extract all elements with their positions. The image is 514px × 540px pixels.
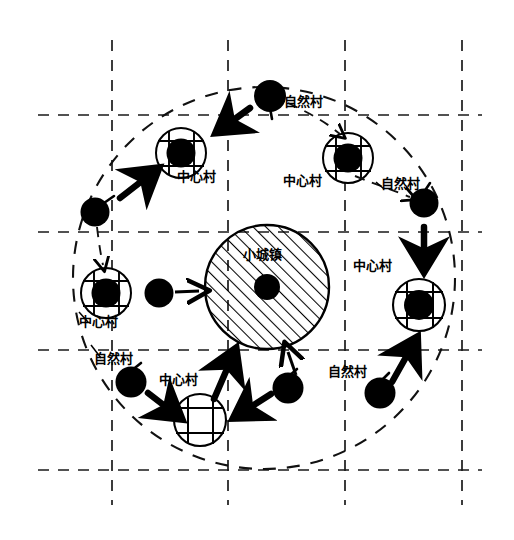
central-village-node[interactable] [174, 394, 226, 446]
diagram-canvas: 自然村 中心村 中心村 自然村 小城镇 中心村 中心村 自然村 中心村 自然村 [0, 0, 514, 540]
small-town-core-dot [254, 274, 280, 300]
label-natural-village-upper-right: 自然村 [381, 177, 420, 190]
central-village-core-dot [404, 290, 434, 320]
settlement-hierarchy-diagram [0, 0, 514, 540]
flow-arrow [246, 394, 271, 410]
label-central-village-top-right: 中心村 [283, 174, 322, 187]
flow-arrow [148, 393, 170, 410]
label-central-village-right: 中心村 [353, 259, 392, 272]
label-small-town: 小城镇 [243, 248, 282, 261]
natural-village-dot[interactable] [145, 279, 174, 308]
central-village-node[interactable] [393, 279, 445, 331]
flow-arrow [392, 350, 410, 382]
central-village-core-dot [334, 144, 363, 173]
label-central-village-top-left: 中心村 [177, 170, 216, 183]
central-village-node[interactable] [323, 133, 373, 183]
label-natural-village-bottom-right: 自然村 [328, 365, 367, 378]
small-town-node[interactable] [205, 225, 329, 349]
central-village-circle [174, 394, 226, 446]
flow-arrow [120, 177, 147, 198]
central-village-core-dot [92, 279, 121, 308]
label-central-village-left: 中心村 [79, 315, 118, 328]
label-central-village-bottom: 中心村 [159, 373, 198, 386]
flow-arrow [175, 291, 199, 292]
flow-arrow [288, 352, 296, 375]
central-village-core-dot [167, 139, 196, 168]
label-natural-village-top: 自然村 [284, 95, 323, 108]
central-village-node[interactable] [81, 268, 131, 318]
label-natural-village-lower-left: 自然村 [94, 352, 133, 365]
flow-arrow [228, 108, 250, 124]
